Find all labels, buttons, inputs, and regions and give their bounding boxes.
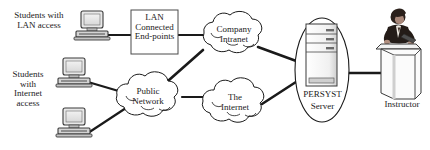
- link-intranet-to-server: [258, 47, 299, 62]
- company-intranet-label: Company Intranet: [205, 25, 263, 44]
- persyst-server-label-secondary: Server: [294, 102, 351, 112]
- link-computer-internet-bottom-to-public: [88, 108, 126, 133]
- network-diagram: Students with LAN access Students with I…: [0, 0, 430, 150]
- server-tower-icon: [306, 24, 337, 86]
- the-internet-label: The Internet: [206, 93, 264, 112]
- students-internet-access-label: Students with Internet access: [2, 70, 54, 109]
- desktop-computer-icon-internet-bottom: [56, 108, 92, 137]
- person-at-podium-icon: [376, 9, 421, 99]
- persyst-server-label-primary: PERSYST: [294, 90, 351, 100]
- instructor-label: Instructor: [374, 100, 430, 110]
- desktop-computer-icon-internet-top: [56, 58, 92, 87]
- lan-connected-endpoints-label: LAN Connected End-points: [130, 13, 179, 42]
- students-lan-access-label: Students with LAN access: [2, 11, 76, 30]
- public-network-label: Public Network: [119, 87, 177, 106]
- desktop-computer-icon-lan: [74, 11, 110, 40]
